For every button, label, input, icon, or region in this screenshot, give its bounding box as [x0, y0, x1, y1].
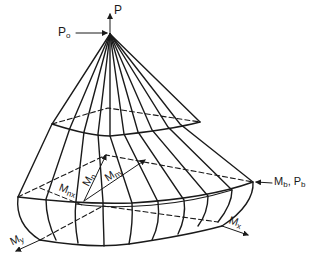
- label-po-sub: o: [66, 31, 70, 40]
- middle-ring-front: [18, 182, 253, 203]
- label-pb-main: , P: [288, 175, 301, 187]
- meridians: [18, 34, 253, 246]
- bottom-ring-back: [40, 206, 218, 240]
- label-po-main: P: [58, 25, 66, 39]
- upper-ring-front: [52, 122, 200, 136]
- label-pb-sub: b: [301, 180, 305, 189]
- mb-pb-arrow: [256, 182, 272, 183]
- label-po: Po: [58, 26, 70, 40]
- interaction-surface-diagram: [0, 0, 314, 259]
- label-mb-main: M: [274, 175, 283, 187]
- label-p: P: [114, 4, 122, 16]
- label-p-main: P: [114, 3, 122, 17]
- label-mb-pb: Mb, Pb: [274, 176, 306, 189]
